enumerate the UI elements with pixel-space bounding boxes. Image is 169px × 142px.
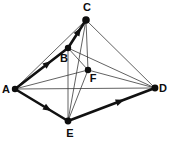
vertex-label-f: F [90,72,97,84]
vertex-dot-d [152,85,159,92]
vertex-label-b: B [60,52,68,64]
vertex-dot-e [65,118,72,125]
graph-figure-svg: ABCDEF [0,0,169,142]
vertex-dot-a [12,86,18,92]
vertex-label-c: C [83,1,91,13]
vertex-dot-c [82,16,90,24]
vertex-label-a: A [2,83,10,95]
vertex-dot-b [65,45,71,51]
vertex-label-d: D [159,82,167,94]
diagram-canvas: ABCDEF [0,0,169,142]
vertex-label-e: E [66,127,73,139]
